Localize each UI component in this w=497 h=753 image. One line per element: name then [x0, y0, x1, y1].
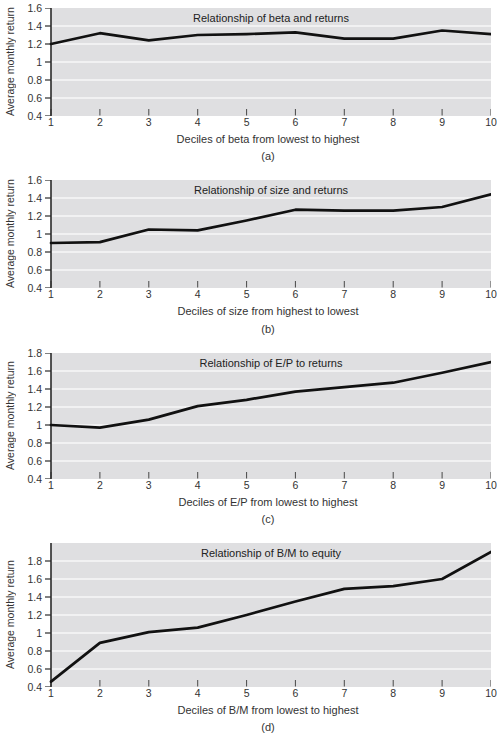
x-tick-label: 7	[341, 289, 347, 300]
y-tick-label: 0.6	[27, 93, 42, 104]
plot-area: Relationship of beta and returns	[45, 8, 491, 116]
x-axis-tick-labels: 12345678910	[45, 116, 491, 130]
x-tick-label: 3	[146, 480, 152, 491]
x-tick-label: 6	[293, 117, 299, 128]
y-tick-label: 1.4	[27, 592, 42, 603]
x-tick-label: 4	[195, 117, 201, 128]
chart-title: Relationship of B/M to equity	[51, 547, 491, 560]
x-tick-label: 7	[341, 117, 347, 128]
y-tick-label: 1	[36, 420, 42, 431]
x-tick-label: 10	[485, 117, 497, 128]
chart-title: Relationship of size and returns	[51, 184, 491, 197]
y-tick-label: 1	[36, 57, 42, 68]
y-tick-label: 0.6	[27, 664, 42, 675]
chart-panel-b: Average monthly return 0.40.60.811.21.41…	[2, 180, 495, 335]
x-tick-label: 3	[146, 117, 152, 128]
x-tick-label: 1	[48, 289, 54, 300]
y-tick-label: 1.4	[27, 193, 42, 204]
y-tick-label: 0.6	[27, 456, 42, 467]
four-panel-figure: Average monthly return 0.40.60.811.21.41…	[0, 0, 497, 741]
y-axis-tick-labels: 0.40.60.811.21.41.61.8	[17, 543, 45, 687]
x-tick-label: 5	[244, 117, 250, 128]
y-tick-label: 1	[36, 229, 42, 240]
panel-caption: (a)	[45, 150, 491, 163]
y-tick-label: 1.4	[27, 384, 42, 395]
y-tick-label: 1.6	[27, 3, 42, 14]
x-tick-label: 1	[48, 688, 54, 699]
panel-caption: (d)	[45, 721, 491, 734]
y-axis-title: Average monthly return	[2, 180, 17, 288]
x-tick-label: 6	[293, 480, 299, 491]
x-tick-label: 6	[293, 688, 299, 699]
y-axis-tick-labels: 0.40.60.811.21.41.61.8	[17, 353, 45, 479]
x-tick-label: 3	[146, 289, 152, 300]
y-tick-label: 0.8	[27, 646, 42, 657]
x-tick-label: 4	[195, 289, 201, 300]
y-tick-label: 1.6	[27, 366, 42, 377]
x-tick-label: 5	[244, 688, 250, 699]
x-tick-label: 9	[439, 480, 445, 491]
x-axis-tick-labels: 12345678910	[45, 288, 491, 302]
x-tick-label: 9	[439, 688, 445, 699]
x-tick-label: 1	[48, 117, 54, 128]
y-tick-label: 0.4	[27, 283, 42, 294]
chart-title: Relationship of E/P to returns	[51, 357, 491, 370]
y-tick-label: 0.6	[27, 265, 42, 276]
x-tick-label: 2	[97, 117, 103, 128]
x-axis-tick-labels: 12345678910	[45, 687, 491, 701]
y-tick-label: 0.4	[27, 474, 42, 485]
y-tick-label: 1.6	[27, 175, 42, 186]
y-tick-label: 0.4	[27, 111, 42, 122]
y-tick-label: 1.2	[27, 39, 42, 50]
x-tick-label: 9	[439, 289, 445, 300]
panel-caption: (c)	[45, 513, 491, 526]
plot-area: Relationship of B/M to equity	[45, 543, 491, 687]
y-tick-label: 1.8	[27, 348, 42, 359]
x-axis-title: Deciles of size from highest to lowest	[45, 305, 491, 318]
y-tick-label: 1.6	[27, 574, 42, 585]
y-axis-title: Average monthly return	[2, 353, 17, 479]
y-tick-label: 0.8	[27, 247, 42, 258]
y-tick-label: 1.4	[27, 21, 42, 32]
x-tick-label: 3	[146, 688, 152, 699]
x-tick-label: 1	[48, 480, 54, 491]
x-tick-label: 4	[195, 688, 201, 699]
x-tick-label: 10	[485, 480, 497, 491]
y-tick-label: 1	[36, 628, 42, 639]
y-axis-title: Average monthly return	[2, 543, 17, 687]
y-tick-label: 1.8	[27, 556, 42, 567]
y-tick-label: 1.2	[27, 402, 42, 413]
x-tick-label: 10	[485, 688, 497, 699]
x-axis-title: Deciles of B/M from lowest to highest	[45, 704, 491, 717]
panel-caption: (b)	[45, 323, 491, 336]
y-axis-title: Average monthly return	[2, 8, 17, 116]
x-tick-label: 2	[97, 688, 103, 699]
x-tick-label: 9	[439, 117, 445, 128]
plot-area: Relationship of size and returns	[45, 180, 491, 288]
y-axis-tick-labels: 0.40.60.811.21.41.6	[17, 180, 45, 288]
x-tick-label: 8	[390, 688, 396, 699]
x-tick-label: 4	[195, 480, 201, 491]
x-tick-label: 8	[390, 480, 396, 491]
x-tick-label: 2	[97, 289, 103, 300]
x-axis-title: Deciles of beta from lowest to highest	[45, 133, 491, 146]
x-tick-label: 5	[244, 289, 250, 300]
x-tick-label: 10	[485, 289, 497, 300]
y-tick-label: 0.8	[27, 75, 42, 86]
chart-title: Relationship of beta and returns	[51, 12, 491, 25]
chart-panel-d: Average monthly return 0.40.60.811.21.41…	[2, 543, 495, 734]
x-tick-label: 8	[390, 117, 396, 128]
x-tick-label: 7	[341, 480, 347, 491]
line-chart-svg	[45, 353, 491, 479]
x-tick-label: 6	[293, 289, 299, 300]
x-tick-label: 8	[390, 289, 396, 300]
x-tick-label: 2	[97, 480, 103, 491]
y-tick-label: 1.2	[27, 610, 42, 621]
plot-area: Relationship of E/P to returns	[45, 353, 491, 479]
chart-panel-c: Average monthly return 0.40.60.811.21.41…	[2, 353, 495, 526]
x-axis-tick-labels: 12345678910	[45, 479, 491, 493]
x-axis-title: Deciles of E/P from lowest to highest	[45, 496, 491, 509]
x-tick-label: 5	[244, 480, 250, 491]
line-chart-svg	[45, 543, 491, 687]
x-tick-label: 7	[341, 688, 347, 699]
